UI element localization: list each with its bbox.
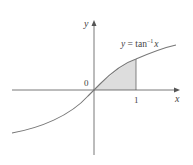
arctan-plot: y x 0 1 y = tan−1x <box>0 0 193 165</box>
x-axis-label: x <box>174 93 180 104</box>
shaded-area <box>94 59 136 90</box>
y-axis-arrow-icon <box>92 20 97 26</box>
origin-label: 0 <box>84 78 89 88</box>
x-tick-1-label: 1 <box>134 95 139 105</box>
curve-equation-label: y = tan−1x <box>120 38 159 49</box>
x-axis-arrow-icon <box>174 88 180 93</box>
y-axis-label: y <box>83 18 89 29</box>
